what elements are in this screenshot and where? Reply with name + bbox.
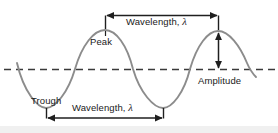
wavelength-top-label-text: Wavelength, — [126, 16, 180, 27]
trough-label: Trough — [31, 96, 61, 106]
wavelength-top-label: Wavelength, λ — [126, 17, 187, 28]
peak-label: Peak — [90, 37, 112, 47]
wavelength-bottom-label: Wavelength, λ — [72, 103, 133, 114]
bottom-edge-band — [0, 126, 278, 133]
lambda-symbol-top: λ — [182, 16, 187, 27]
wavelength-bottom-label-text: Wavelength, — [72, 102, 126, 113]
lambda-symbol-bottom: λ — [128, 102, 133, 113]
amplitude-label: Amplitude — [198, 76, 241, 86]
wave-diagram-figure: Peak Trough Amplitude Wavelength, λ Wave… — [0, 0, 278, 133]
